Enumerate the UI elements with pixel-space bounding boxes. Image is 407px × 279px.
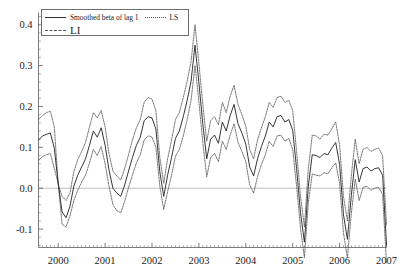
axes-group [39, 13, 387, 248]
legend-line-sample-smoothed-beta [45, 17, 66, 19]
x-tick-label: 2004 [235, 255, 257, 266]
y-tick-label: -0.1 [16, 224, 33, 235]
x-tick-label: 2002 [141, 255, 162, 266]
legend-row-primary: Smoothed beta of lag 1 LS [42, 11, 188, 24]
legend-label-li: LI [70, 25, 80, 36]
y-tick-label: 0.0 [19, 183, 32, 194]
legend-label-ls: LS [170, 14, 179, 21]
series-line-ls [39, 25, 387, 227]
y-axis-tick-labels: 0.40.30.20.10.0-0.1 [16, 19, 33, 234]
legend-label-smoothed-beta: Smoothed beta of lag 1 [70, 14, 139, 21]
legend-line-sample-ls [145, 17, 166, 19]
x-tick-label: 2001 [95, 255, 116, 266]
legend-row-secondary: LI [42, 24, 188, 37]
data-series-group [39, 25, 387, 264]
x-tick-label: 2003 [188, 255, 209, 266]
x-axis-tick-labels: 20002001200220032004200520062007 [48, 255, 397, 266]
y-tick-label: 0.3 [19, 60, 32, 71]
series-line-smoothed-beta [39, 45, 387, 244]
y-tick-label: 0.4 [19, 19, 33, 30]
chart-legend: Smoothed beta of lag 1 LS LI [41, 9, 189, 36]
chart-figure: 0.40.30.20.10.0-0.1 20002001200220032004… [0, 0, 407, 279]
x-tick-label: 2007 [376, 255, 397, 266]
y-tick-label: 0.2 [19, 101, 32, 112]
tick-marks-group [39, 17, 387, 248]
series-line-li [39, 66, 387, 264]
x-tick-label: 2005 [282, 255, 303, 266]
legend-line-sample-li [45, 30, 66, 32]
line-chart-canvas: 0.40.30.20.10.0-0.1 20002001200220032004… [0, 0, 407, 279]
x-tick-label: 2006 [329, 255, 350, 266]
y-tick-label: 0.1 [19, 142, 32, 153]
x-tick-label: 2000 [48, 255, 69, 266]
